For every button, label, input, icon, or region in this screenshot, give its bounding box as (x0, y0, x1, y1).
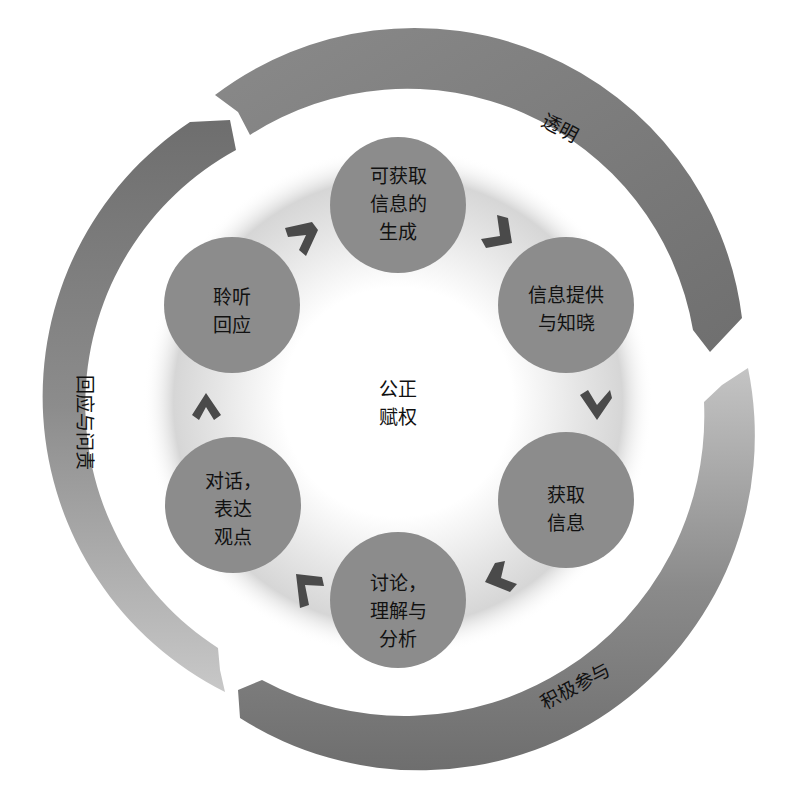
svg-text:对话，: 对话， (205, 470, 262, 492)
svg-text:获取: 获取 (547, 484, 585, 506)
node-discussion-analysis: 讨论， 理解与 分析 (330, 532, 466, 668)
svg-text:公正: 公正 (379, 378, 417, 400)
svg-text:信息的: 信息的 (370, 193, 427, 215)
svg-text:赋权: 赋权 (379, 406, 417, 428)
svg-text:信息: 信息 (547, 512, 585, 534)
arc-label-response-accountability: 回应与问责 (74, 375, 96, 470)
svg-text:信息提供: 信息提供 (528, 284, 604, 306)
svg-text:讨论，: 讨论， (370, 572, 427, 594)
svg-text:回应: 回应 (213, 314, 251, 336)
svg-text:表达: 表达 (214, 498, 252, 520)
node-dialogue-expression: 对话， 表达 观点 (165, 437, 301, 573)
node-listen-respond: 聆听 回应 (164, 237, 300, 373)
cycle-diagram: 透明 积极参与 回应与问责 可获取 信息的 生成 信息提供 与知晓 获取 信息 … (0, 0, 796, 808)
svg-text:与知晓: 与知晓 (538, 312, 595, 334)
svg-text:聆听: 聆听 (213, 286, 251, 308)
svg-text:回应与问责: 回应与问责 (74, 375, 96, 470)
node-info-generation: 可获取 信息的 生成 (330, 137, 466, 273)
node-info-provision: 信息提供 与知晓 (498, 237, 634, 373)
node-info-access: 获取 信息 (498, 432, 634, 568)
svg-text:观点: 观点 (214, 526, 252, 548)
svg-text:生成: 生成 (379, 221, 417, 243)
svg-text:可获取: 可获取 (370, 165, 427, 187)
svg-text:理解与: 理解与 (370, 600, 427, 622)
svg-text:分析: 分析 (379, 628, 417, 650)
